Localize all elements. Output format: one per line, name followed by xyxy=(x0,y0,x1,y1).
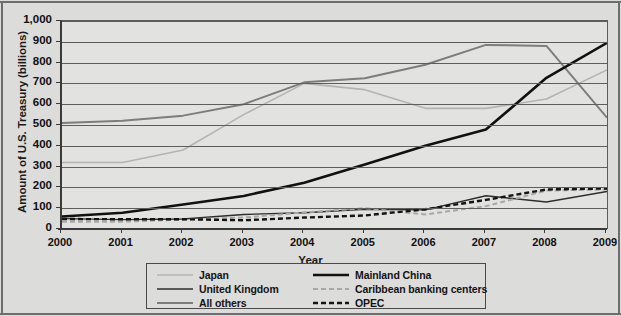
legend-item[interactable]: Mainland China xyxy=(313,268,487,281)
y-tick-label: 500 xyxy=(0,117,52,129)
legend-label: Japan xyxy=(199,269,229,281)
legend-swatch xyxy=(313,269,349,281)
legend-column-right: Mainland ChinaCaribbean banking centersO… xyxy=(313,268,487,310)
chart-legend: JapanUnited KingdomAll others Mainland C… xyxy=(146,263,486,309)
legend-label: United Kingdom xyxy=(199,283,279,295)
y-tick-label: 400 xyxy=(0,138,52,150)
x-tick-mark xyxy=(423,228,424,233)
x-tick-label: 2001 xyxy=(91,236,151,248)
legend-label: Caribbean banking centers xyxy=(355,283,487,295)
x-tick-label: 2006 xyxy=(393,236,453,248)
gridline xyxy=(62,83,607,84)
x-tick-label: 2008 xyxy=(514,236,574,248)
x-axis-line xyxy=(58,228,607,230)
x-tick-mark xyxy=(181,228,182,233)
series-line xyxy=(62,188,607,220)
gridline xyxy=(62,146,607,147)
x-tick-label: 2002 xyxy=(151,236,211,248)
plot-inner xyxy=(62,21,607,229)
figure-frame-right xyxy=(618,1,620,315)
y-tick-label: 200 xyxy=(0,179,52,191)
x-tick-label: 2000 xyxy=(30,236,90,248)
gridline xyxy=(62,125,607,126)
y-tick-label: 600 xyxy=(0,96,52,108)
x-tick-mark xyxy=(242,228,243,233)
gridline xyxy=(62,208,607,209)
y-tick-label: 0 xyxy=(0,221,52,233)
x-tick-mark xyxy=(363,228,364,233)
x-tick-label: 2005 xyxy=(333,236,393,248)
x-tick-label: 2009 xyxy=(575,236,621,248)
x-tick-mark xyxy=(60,228,61,233)
gridline xyxy=(62,63,607,64)
gridline xyxy=(62,167,607,168)
y-tick-label: 300 xyxy=(0,159,52,171)
gridline xyxy=(62,187,607,188)
x-tick-mark xyxy=(484,228,485,233)
y-tick-label: 1,000 xyxy=(0,13,52,25)
series-line xyxy=(62,43,607,217)
legend-label: OPEC xyxy=(355,297,384,309)
legend-swatch xyxy=(157,283,193,295)
y-tick-label: 800 xyxy=(0,55,52,67)
x-tick-label: 2003 xyxy=(212,236,272,248)
x-tick-mark xyxy=(121,228,122,233)
legend-swatch xyxy=(157,297,193,309)
gridline xyxy=(62,42,607,43)
legend-label: Mainland China xyxy=(355,269,431,281)
x-tick-mark xyxy=(302,228,303,233)
legend-item[interactable]: Caribbean banking centers xyxy=(313,282,487,295)
legend-item[interactable]: Japan xyxy=(157,268,279,281)
chart-figure: Amount of U.S. Treasury (billions) 1,000… xyxy=(0,0,621,316)
legend-item[interactable]: United Kingdom xyxy=(157,282,279,295)
plot-area xyxy=(60,20,608,229)
x-tick-label: 2007 xyxy=(454,236,514,248)
figure-frame-bottom xyxy=(0,313,621,315)
legend-swatch xyxy=(313,283,349,295)
y-tick-label: 900 xyxy=(0,34,52,46)
legend-label: All others xyxy=(199,297,246,309)
y-tick-label: 700 xyxy=(0,75,52,87)
legend-item[interactable]: OPEC xyxy=(313,296,487,309)
legend-column-left: JapanUnited KingdomAll others xyxy=(157,268,279,310)
x-tick-mark xyxy=(544,228,545,233)
x-tick-mark xyxy=(605,228,606,233)
gridline xyxy=(62,21,607,22)
legend-item[interactable]: All others xyxy=(157,296,279,309)
y-tick-label: 100 xyxy=(0,200,52,212)
legend-swatch xyxy=(157,269,193,281)
legend-swatch xyxy=(313,297,349,309)
gridline xyxy=(62,104,607,105)
figure-frame-top xyxy=(0,1,621,3)
x-tick-label: 2004 xyxy=(272,236,332,248)
